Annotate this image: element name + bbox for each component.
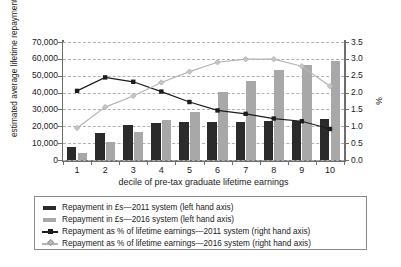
chart-legend: Repayment in £s—2011 system (left hand a…: [34, 196, 367, 250]
x-axis-tick: [288, 161, 289, 165]
legend-square-marker: [48, 229, 53, 234]
line-path: [77, 59, 330, 128]
y-axis-tick: [58, 59, 62, 60]
legend-swatch-line-gray: [42, 238, 58, 249]
secondary-y-axis-tick: [345, 42, 349, 43]
secondary-y-axis-tick: [345, 59, 349, 60]
y-axis-tick: [58, 93, 62, 94]
data-point-marker: [131, 93, 136, 98]
plot-area: [63, 42, 344, 160]
secondary-y-axis-tick: [345, 143, 349, 144]
x-axis-tick-label: 9: [287, 166, 317, 175]
y-axis-tick-label: 10,000: [32, 139, 58, 148]
data-point-marker: [300, 119, 304, 123]
secondary-y-axis-tick-label: 0.0: [351, 156, 363, 165]
x-axis-tick-label: 8: [259, 166, 289, 175]
legend-swatch-line-dark: [42, 226, 58, 237]
x-axis-tick: [91, 161, 92, 165]
secondary-y-axis-tick: [345, 76, 349, 77]
y-axis-tick-label: 70,000: [32, 38, 58, 47]
legend-item[interactable]: Repayment as % of lifetime earnings—2011…: [42, 226, 360, 238]
legend-item[interactable]: Repayment in £s—2016 system (left hand a…: [42, 214, 360, 226]
data-point-marker: [215, 108, 219, 112]
secondary-y-axis-tick-label: 3.0: [351, 54, 363, 63]
gridline: [63, 160, 344, 161]
data-point-marker: [131, 80, 135, 84]
x-axis-tick-label: 5: [174, 166, 204, 175]
data-point-marker: [328, 127, 332, 131]
x-axis-tick: [316, 161, 317, 165]
y-axis-tick-label: 40,000: [32, 88, 58, 97]
data-point-marker: [215, 60, 220, 65]
x-axis-tick: [175, 161, 176, 165]
secondary-y-axis-tick-label: 2.0: [351, 88, 363, 97]
secondary-y-axis-tick-label: 3.5: [351, 38, 363, 47]
data-point-marker: [243, 56, 248, 61]
data-point-marker: [187, 69, 192, 74]
x-axis-tick: [204, 161, 205, 165]
y-axis-tick: [58, 76, 62, 77]
legend-label: Repayment as % of lifetime earnings—2011…: [62, 228, 310, 236]
data-point-marker: [187, 100, 191, 104]
x-axis-tick-label: 10: [315, 166, 345, 175]
data-point-marker: [243, 112, 247, 116]
x-axis-tick-label: 2: [90, 166, 120, 175]
data-point-marker: [271, 56, 276, 61]
secondary-y-axis-title: %: [374, 90, 384, 112]
data-point-marker: [103, 75, 107, 79]
secondary-y-axis-tick: [345, 109, 349, 110]
data-point-marker: [75, 89, 79, 93]
x-axis-tick: [119, 161, 120, 165]
secondary-y-axis-tick-label: 1.0: [351, 122, 363, 131]
x-axis-tick-label: 7: [231, 166, 261, 175]
legend-item[interactable]: Repayment as % of lifetime earnings—2016…: [42, 238, 360, 250]
x-axis-tick: [147, 161, 148, 165]
y-axis-tick-label: 0: [53, 156, 58, 165]
y-axis-title: estimated average lifetime repayments (£…: [9, 0, 19, 137]
secondary-y-axis-tick: [345, 93, 349, 94]
x-axis-tick: [232, 161, 233, 165]
data-point-marker: [159, 80, 164, 85]
x-axis-tick: [260, 161, 261, 165]
y-axis-tick: [58, 160, 62, 161]
legend-label: Repayment in £s—2011 system (left hand a…: [62, 204, 233, 212]
legend-bar-swatch: [43, 206, 56, 210]
secondary-y-axis-tick-label: 0.5: [351, 139, 363, 148]
secondary-y-axis-tick-label: 2.5: [351, 71, 363, 80]
y-axis-tick: [58, 109, 62, 110]
legend-diamond-marker: [46, 239, 54, 247]
x-axis-tick: [344, 161, 345, 165]
secondary-y-axis-tick: [345, 126, 349, 127]
secondary-y-axis-tick: [345, 160, 349, 161]
y-axis-tick-label: 50,000: [32, 71, 58, 80]
x-axis-tick-label: 1: [62, 166, 92, 175]
x-axis-tick-label: 6: [203, 166, 233, 175]
legend-label: Repayment in £s—2016 system (left hand a…: [62, 216, 234, 224]
y-axis-tick-label: 60,000: [32, 54, 58, 63]
legend-bar-swatch: [43, 218, 56, 222]
y-axis-tick: [58, 126, 62, 127]
x-axis-tick-label: 3: [118, 166, 148, 175]
secondary-y-axis-tick-label: 1.5: [351, 105, 363, 114]
line-series-group: [63, 42, 344, 160]
legend-swatch-bar-dark: [42, 202, 58, 213]
chart-figure: estimated average lifetime repayments (£…: [0, 0, 401, 267]
data-point-marker: [272, 116, 276, 120]
legend-label: Repayment as % of lifetime earnings—2016…: [62, 240, 311, 248]
y-axis-tick-label: 20,000: [32, 122, 58, 131]
x-axis-tick-label: 4: [146, 166, 176, 175]
x-axis-tick: [63, 161, 64, 165]
legend-item[interactable]: Repayment in £s—2011 system (left hand a…: [42, 202, 360, 214]
y-axis-tick: [58, 42, 62, 43]
y-axis-tick-label: 30,000: [32, 105, 58, 114]
legend-swatch-bar-gray: [42, 214, 58, 225]
y-axis-tick: [58, 143, 62, 144]
x-axis-title: decile of pre-tax graduate lifetime earn…: [63, 177, 344, 187]
data-point-marker: [159, 89, 163, 93]
